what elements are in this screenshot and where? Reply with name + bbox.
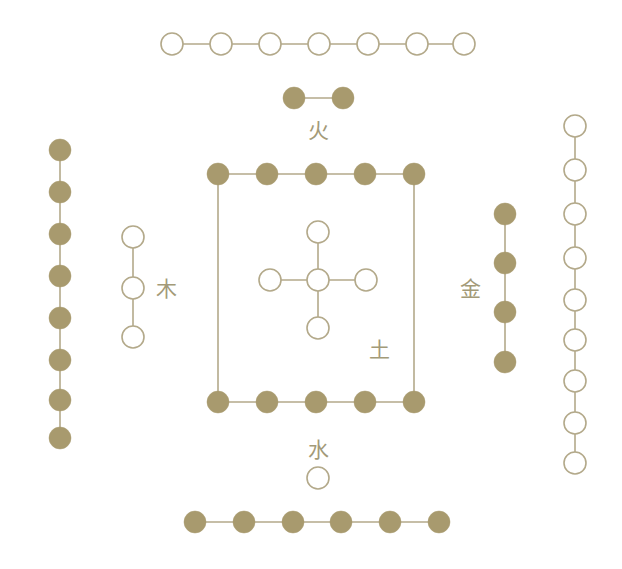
top-row-seven-hollow-dot xyxy=(210,33,232,55)
metal-four-filled-dot xyxy=(494,203,516,225)
bottom-row-six-filled-dot xyxy=(428,511,450,533)
earth-cross-five-hollow-dot xyxy=(259,269,281,291)
metal-four-filled-dot xyxy=(494,351,516,373)
earth-square-ten-filled-dot xyxy=(403,391,425,413)
left-column-eight-filled-dot xyxy=(49,139,71,161)
top-row-seven-hollow-dot xyxy=(453,33,475,55)
top-row-seven-hollow-dot xyxy=(308,33,330,55)
water-one-hollow-dot xyxy=(307,467,329,489)
top-row-seven-hollow-dot xyxy=(259,33,281,55)
right-column-nine-hollow-dot xyxy=(564,203,586,225)
top-row-seven-hollow-dot xyxy=(161,33,183,55)
earth-square-ten-filled-dot xyxy=(354,163,376,185)
earth-square-ten-filled-dot xyxy=(305,391,327,413)
element-label-water: 水 xyxy=(308,440,329,461)
element-label-earth: 土 xyxy=(369,340,390,361)
fire-two-filled-dot xyxy=(283,87,305,109)
left-column-eight-filled-dot xyxy=(49,265,71,287)
right-column-nine-hollow-dot xyxy=(564,247,586,269)
left-column-eight-filled-dot xyxy=(49,223,71,245)
left-column-eight-filled-dot xyxy=(49,307,71,329)
bottom-row-six-filled-dot xyxy=(330,511,352,533)
earth-square-ten-filled-dot xyxy=(256,163,278,185)
wood-three-hollow-dot xyxy=(122,277,144,299)
bottom-row-six-filled-dot xyxy=(282,511,304,533)
left-column-eight-filled-dot xyxy=(49,181,71,203)
left-column-eight-filled-dot xyxy=(49,349,71,371)
earth-square-ten-filled-dot xyxy=(207,163,229,185)
right-column-nine-hollow-dot xyxy=(564,329,586,351)
wood-three-hollow-dot xyxy=(122,226,144,248)
right-column-nine-hollow-dot xyxy=(564,452,586,474)
element-label-fire: 火 xyxy=(308,121,329,142)
diagram-canvas xyxy=(0,0,622,569)
metal-four-filled-dot xyxy=(494,301,516,323)
element-label-metal: 金 xyxy=(460,279,481,300)
left-column-eight-filled-dot xyxy=(49,427,71,449)
bottom-row-six-filled-dot xyxy=(184,511,206,533)
earth-square-ten-filled-dot xyxy=(305,163,327,185)
earth-cross-five-hollow-dot xyxy=(355,269,377,291)
fire-two-filled-dot xyxy=(332,87,354,109)
bottom-row-six-filled-dot xyxy=(379,511,401,533)
left-column-eight-filled-dot xyxy=(49,389,71,411)
earth-cross-five-hollow-dot xyxy=(307,317,329,339)
right-column-nine-hollow-dot xyxy=(564,289,586,311)
earth-square-ten-filled-dot xyxy=(207,391,229,413)
right-column-nine-hollow-dot xyxy=(564,412,586,434)
bottom-row-six-filled-dot xyxy=(233,511,255,533)
earth-square-ten-filled-dot xyxy=(256,391,278,413)
earth-cross-five-hollow-dot xyxy=(307,269,329,291)
earth-square-ten-filled-dot xyxy=(354,391,376,413)
earth-cross-five-hollow-dot xyxy=(307,221,329,243)
metal-four-filled-dot xyxy=(494,252,516,274)
right-column-nine-hollow-dot xyxy=(564,159,586,181)
top-row-seven-hollow-dot xyxy=(357,33,379,55)
top-row-seven-hollow-dot xyxy=(406,33,428,55)
element-label-wood: 木 xyxy=(156,279,177,300)
right-column-nine-hollow-dot xyxy=(564,115,586,137)
wood-three-hollow-dot xyxy=(122,326,144,348)
right-column-nine-hollow-dot xyxy=(564,370,586,392)
five-element-diagram: 火木土金水 xyxy=(0,0,622,569)
earth-square-ten-filled-dot xyxy=(403,163,425,185)
